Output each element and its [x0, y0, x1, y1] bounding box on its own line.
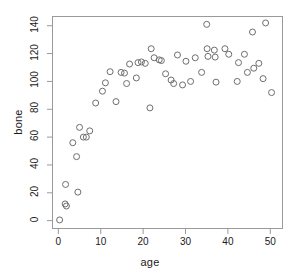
data-point [263, 20, 269, 26]
y-tick-label-20: 20 [29, 177, 40, 205]
y-tick-label-140: 140 [29, 10, 40, 38]
data-point [199, 69, 205, 75]
data-point [256, 60, 262, 66]
data-point [183, 58, 189, 64]
data-point [102, 80, 108, 86]
y-tick-label-100: 100 [29, 66, 40, 94]
data-point [234, 78, 240, 84]
data-point [63, 181, 69, 187]
data-point [63, 203, 69, 209]
x-tick-label-10: 10 [86, 236, 116, 247]
data-point [213, 79, 219, 85]
y-tick-label-120: 120 [29, 38, 40, 66]
data-point [251, 65, 257, 71]
data-point [113, 99, 119, 105]
y-tick-label-60: 60 [29, 122, 40, 150]
data-point [57, 217, 63, 223]
data-point [87, 128, 93, 134]
data-point [192, 55, 198, 61]
data-point [107, 69, 113, 75]
data-point [77, 124, 83, 130]
data-point [75, 189, 81, 195]
y-tick-label-80: 80 [29, 94, 40, 122]
data-point [222, 46, 228, 52]
data-point [99, 88, 105, 94]
x-axis-title: age [0, 256, 300, 268]
data-point [204, 21, 210, 27]
data-point [188, 78, 194, 84]
x-axis-ticks [58, 229, 270, 234]
x-tick-label-50: 50 [255, 236, 285, 247]
y-tick-label-0: 0 [29, 205, 40, 233]
data-point [148, 46, 154, 52]
x-tick-label-0: 0 [43, 236, 73, 247]
data-point [269, 90, 275, 96]
data-point [204, 46, 210, 52]
data-point [236, 60, 242, 66]
data-point [93, 100, 99, 106]
data-point [124, 81, 130, 87]
y-tick-label-40: 40 [29, 149, 40, 177]
data-point [205, 53, 211, 59]
y-axis-title: bone [12, 82, 24, 162]
x-tick-label-20: 20 [128, 236, 158, 247]
x-tick-label-30: 30 [171, 236, 201, 247]
data-point [133, 75, 139, 81]
data-point [260, 76, 266, 82]
data-point [180, 82, 186, 88]
data-point [174, 52, 180, 58]
data-point [127, 61, 133, 67]
y-axis-ticks [47, 26, 52, 221]
data-point [70, 140, 76, 146]
data-point [249, 29, 255, 35]
data-point-group [57, 20, 275, 223]
data-point [74, 154, 80, 160]
data-point [142, 60, 148, 66]
data-point [147, 105, 153, 111]
data-point [241, 51, 247, 57]
data-point [211, 47, 217, 53]
data-point [163, 71, 169, 77]
x-tick-label-40: 40 [213, 236, 243, 247]
data-point [212, 54, 218, 60]
data-point [226, 51, 232, 57]
data-point [244, 69, 250, 75]
scatter-plot-figure: bone age 01020304050 020406080100120140 [0, 0, 300, 280]
